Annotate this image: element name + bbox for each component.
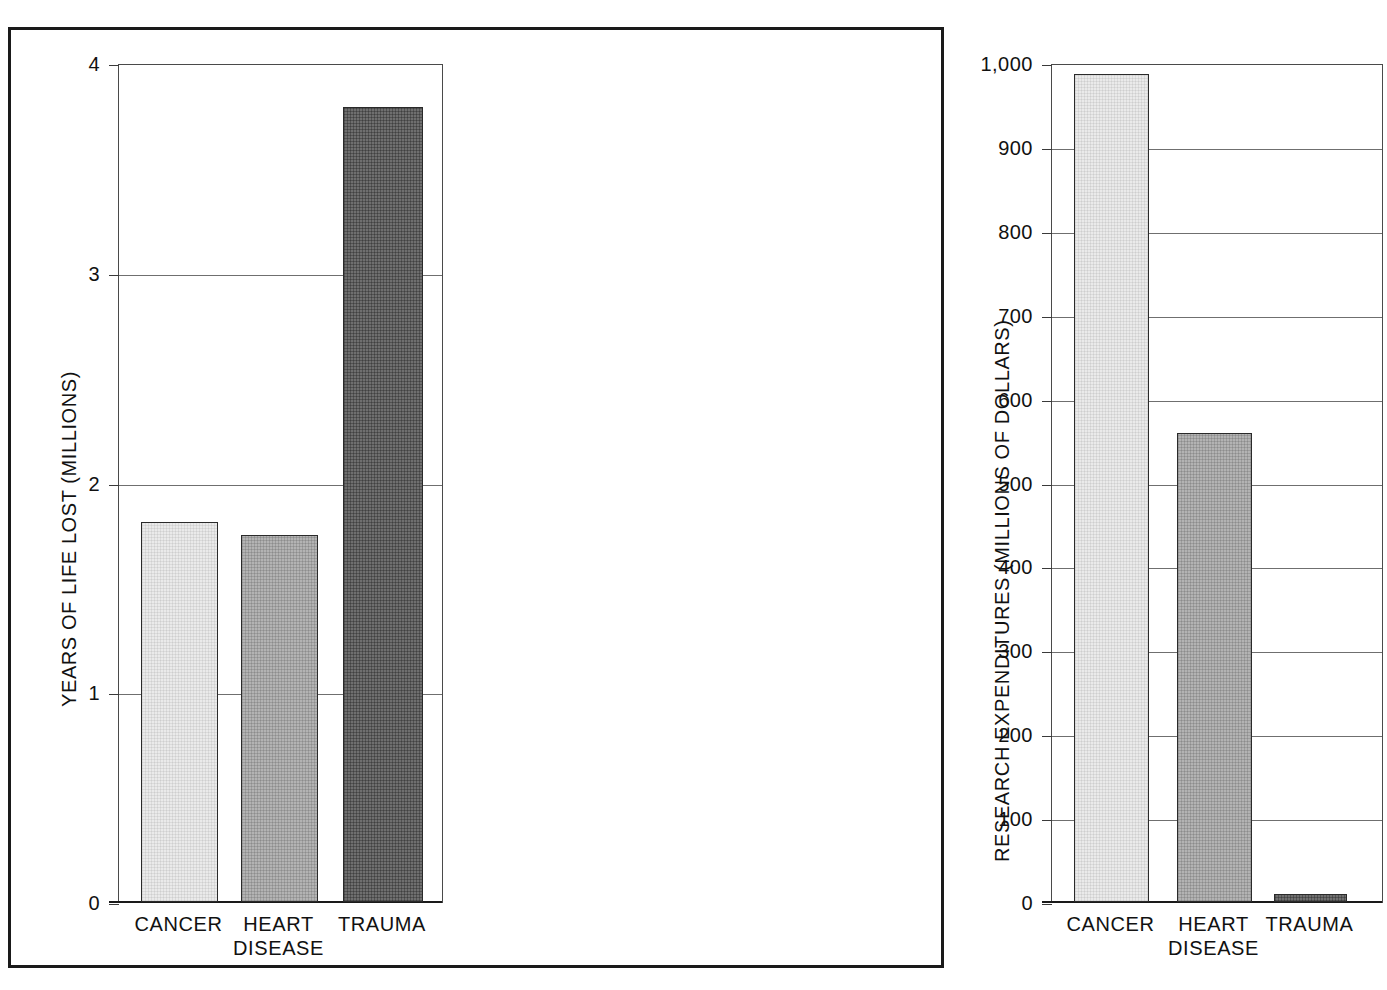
y-axis-tick — [1042, 820, 1052, 821]
y-axis-tick-label: 700 — [941, 306, 1033, 326]
x-axis-category-label: TRAUMA — [302, 912, 462, 936]
y-axis-tick — [1042, 65, 1052, 66]
y-axis-tick-label: 600 — [941, 390, 1033, 410]
y-axis-tick — [1042, 149, 1052, 150]
y-axis-tick — [1042, 401, 1052, 402]
plot-area-right — [1051, 64, 1383, 903]
bar — [1177, 433, 1252, 902]
y-axis-tick-label: 300 — [941, 641, 1033, 661]
chart-panel-left: YEARS OF LIFE LOST (MILLIONS) 01234CANCE… — [0, 0, 476, 990]
y-axis-tick-label: 1 — [8, 683, 100, 703]
chart-panel-right: RESEARCH EXPENDITURES (MILLIONS OF DOLLA… — [476, 0, 952, 990]
bar — [141, 522, 218, 902]
y-axis-tick-label: 2 — [8, 474, 100, 494]
y-axis-tick — [1042, 568, 1052, 569]
y-axis-tick — [109, 65, 119, 66]
y-axis-tick-label: 1,000 — [941, 54, 1033, 74]
x-axis-category-label: TRAUMA — [1230, 912, 1387, 936]
y-axis-tick — [1042, 736, 1052, 737]
plot-area-left — [118, 64, 443, 903]
bar — [241, 535, 318, 902]
bar — [343, 107, 423, 902]
y-axis-tick-label: 100 — [941, 809, 1033, 829]
y-axis-title-left: YEARS OF LIFE LOST (MILLIONS) — [58, 371, 81, 707]
y-axis-tick-label: 200 — [941, 725, 1033, 745]
bar — [1074, 74, 1149, 902]
y-axis-tick — [1042, 485, 1052, 486]
y-axis-tick-label: 3 — [8, 264, 100, 284]
y-axis-tick — [109, 275, 119, 276]
y-axis-tick-label: 0 — [941, 893, 1033, 913]
y-axis-tick-label: 500 — [941, 474, 1033, 494]
y-axis-tick — [1042, 317, 1052, 318]
y-axis-tick-label: 800 — [941, 222, 1033, 242]
y-axis-tick — [1042, 652, 1052, 653]
y-axis-tick — [1042, 233, 1052, 234]
y-axis-tick-label: 4 — [8, 54, 100, 74]
y-axis-tick-label: 400 — [941, 557, 1033, 577]
y-axis-tick-label: 900 — [941, 138, 1033, 158]
y-axis-tick-label: 0 — [8, 893, 100, 913]
y-axis-tick — [109, 485, 119, 486]
y-axis-tick — [109, 694, 119, 695]
y-axis-tick — [1042, 904, 1052, 905]
y-axis-tick — [109, 904, 119, 905]
bar — [1274, 894, 1347, 902]
